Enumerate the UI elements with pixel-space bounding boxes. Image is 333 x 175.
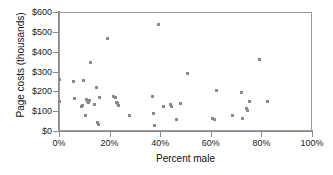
data-point	[157, 23, 160, 26]
x-tick-label: 100%	[292, 139, 332, 148]
y-tick	[53, 72, 58, 73]
data-point	[213, 118, 216, 121]
x-tick-label: 40%	[140, 139, 180, 148]
x-tick	[59, 132, 60, 137]
data-point	[93, 103, 96, 106]
data-point	[153, 124, 156, 127]
data-point	[81, 104, 84, 107]
data-point	[162, 105, 165, 108]
x-tick	[110, 132, 111, 137]
data-point	[152, 112, 155, 115]
y-tick	[53, 32, 58, 33]
x-tick-label: 60%	[191, 139, 231, 148]
y-tick-label: $500	[2, 28, 52, 37]
x-tick	[211, 132, 212, 137]
data-point	[246, 109, 249, 112]
data-point	[240, 91, 243, 94]
y-tick	[53, 52, 58, 53]
x-tick	[160, 132, 161, 137]
data-point	[106, 37, 109, 40]
data-point	[73, 97, 76, 100]
data-point	[179, 102, 182, 105]
data-point	[89, 61, 92, 64]
data-point	[248, 100, 251, 103]
data-point	[175, 118, 178, 121]
data-point	[186, 72, 189, 75]
data-point	[82, 79, 85, 82]
x-tick	[312, 132, 313, 137]
data-point	[241, 117, 244, 120]
x-tick-label: 0%	[39, 139, 79, 148]
y-tick-label: $300	[2, 68, 52, 77]
x-tick-label: 20%	[90, 139, 130, 148]
data-point	[58, 78, 61, 81]
data-point	[114, 96, 117, 99]
y-tick-label: $100	[2, 107, 52, 116]
y-tick	[53, 12, 58, 13]
x-axis-title: Percent male	[59, 154, 312, 164]
y-tick	[53, 131, 58, 132]
data-point	[84, 114, 87, 117]
y-tick-label: $0	[2, 127, 52, 136]
y-tick-label: $600	[2, 8, 52, 17]
data-point	[72, 80, 75, 83]
data-point	[97, 123, 100, 126]
data-point	[88, 99, 91, 102]
data-point	[231, 114, 234, 117]
data-point	[258, 58, 261, 61]
x-tick-label: 80%	[241, 139, 281, 148]
y-tick	[53, 91, 58, 92]
data-point	[98, 96, 101, 99]
data-point	[170, 105, 173, 108]
data-point	[266, 100, 269, 103]
data-point	[117, 104, 120, 107]
data-point	[95, 86, 98, 89]
y-tick	[53, 111, 58, 112]
data-point	[151, 95, 154, 98]
y-tick-label: $200	[2, 87, 52, 96]
data-point	[215, 89, 218, 92]
scatter-plot-figure: $0$100$200$300$400$500$600 0%20%40%60%80…	[0, 0, 333, 175]
y-axis-title: Page costs (thousands)	[16, 3, 26, 128]
x-tick	[261, 132, 262, 137]
data-point	[128, 114, 131, 117]
data-point	[58, 100, 61, 103]
y-tick-label: $400	[2, 48, 52, 57]
